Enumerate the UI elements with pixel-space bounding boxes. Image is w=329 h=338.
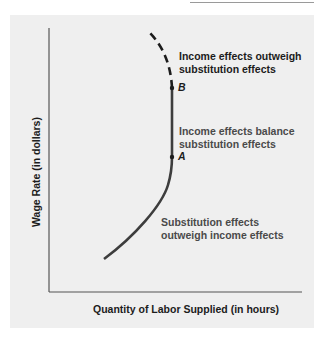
annotation-bottom-line1: Substitution effects	[161, 216, 284, 229]
annotation-middle-line2: substitution effects	[179, 138, 295, 151]
annotation-bottom-line2: outweigh income effects	[161, 229, 284, 242]
annotation-top-line2: substitution effects	[179, 63, 302, 76]
supply-curve-lower	[104, 157, 172, 259]
annotation-middle-line1: Income effects balance	[179, 125, 295, 138]
annotation-middle: Income effects balance substitution effe…	[179, 125, 295, 151]
annotation-top-line1: Income effects outweigh	[179, 50, 302, 63]
y-axis-label: Wage Rate (in dollars)	[30, 117, 42, 227]
annotation-bottom: Substitution effects outweigh income eff…	[161, 216, 284, 242]
point-b-label: B	[178, 81, 186, 93]
point-a-label: A	[178, 150, 186, 162]
annotation-top: Income effects outweigh substitution eff…	[179, 50, 302, 76]
x-axis-label: Quantity of Labor Supplied (in hours)	[93, 303, 279, 315]
point-b-marker	[170, 86, 174, 90]
point-a-marker	[170, 155, 174, 159]
supply-curve-upper-dashed	[149, 32, 172, 88]
